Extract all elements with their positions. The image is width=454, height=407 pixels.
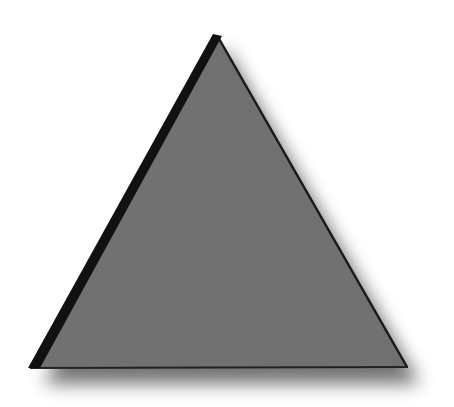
triangle-fill (30, 35, 408, 368)
triangle-icon (0, 0, 454, 407)
triangle-bottom-edge (30, 367, 408, 368)
triangle-canvas (0, 0, 454, 407)
